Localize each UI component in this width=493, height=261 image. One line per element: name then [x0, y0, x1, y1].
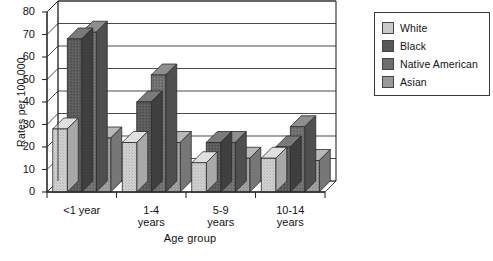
x-tick-label-line: 5-9: [181, 204, 261, 216]
y-tick-label: 60: [9, 51, 35, 62]
x-tick-label: 10-14years: [250, 204, 330, 228]
legend-swatch-icon: [382, 22, 394, 34]
y-tick-label: 70: [9, 29, 35, 40]
y-tick-label: 30: [9, 119, 35, 130]
legend-item: Black: [382, 37, 483, 55]
y-tick-label: 10: [9, 164, 35, 175]
legend-label: Native American: [400, 58, 478, 70]
legend-swatch-icon: [382, 40, 394, 52]
x-tick-label: <1 year: [42, 204, 122, 216]
y-tick-label: 20: [9, 141, 35, 152]
x-tick-label-line: years: [111, 216, 191, 228]
x-tick-label-line: years: [250, 216, 330, 228]
x-tick-label: 1-4years: [111, 204, 191, 228]
legend-label: Black: [400, 40, 426, 52]
x-tick-label: 5-9years: [181, 204, 261, 228]
legend-label: White: [400, 22, 427, 34]
x-axis-title: Age group: [40, 232, 340, 244]
legend-item: Asian: [382, 73, 483, 91]
x-tick-label-line: <1 year: [42, 204, 122, 216]
legend-item: White: [382, 19, 483, 37]
x-tick-label-line: 1-4: [111, 204, 191, 216]
legend-swatch-icon: [382, 76, 394, 88]
y-tick-label: 50: [9, 74, 35, 85]
y-tick-label: 80: [9, 6, 35, 17]
y-tick-label: 40: [9, 96, 35, 107]
bar-chart-figure: Rates per 100,000: [0, 0, 493, 261]
legend-swatch-icon: [382, 58, 394, 70]
legend-label: Asian: [400, 76, 427, 88]
y-tick-label: 0: [9, 186, 35, 197]
x-tick-label-line: years: [181, 216, 261, 228]
legend: WhiteBlackNative AmericanAsian: [374, 12, 490, 96]
x-tick-label-line: 10-14: [250, 204, 330, 216]
legend-item: Native American: [382, 55, 483, 73]
